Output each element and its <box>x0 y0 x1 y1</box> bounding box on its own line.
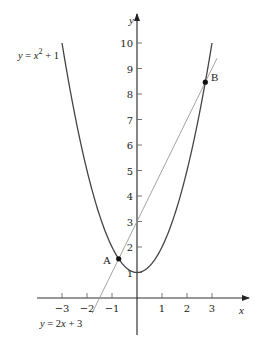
y-tick-label: 4 <box>127 191 133 202</box>
y-tick-label: 7 <box>127 115 133 126</box>
x-tick-label: −3 <box>55 303 70 314</box>
y-tick-label: 9 <box>127 64 133 75</box>
x-ticks: −3−2−1123 <box>55 293 216 314</box>
point-a-marker <box>116 256 121 261</box>
parabola-equation-label: y = x2 + 1 <box>17 47 59 61</box>
line-equation-label: y = 2x + 3 <box>39 318 82 329</box>
y-tick-label: 5 <box>127 166 133 177</box>
y-axis-label: y <box>128 14 134 26</box>
graph-canvas: −3−2−1123 12345678910 A B y x y = x2 + 1… <box>0 0 257 352</box>
x-tick-label: −1 <box>105 303 120 314</box>
x-tick-label: 3 <box>209 303 215 314</box>
y-tick-label: 10 <box>120 38 133 49</box>
point-b-marker <box>203 80 208 85</box>
y-tick-label: 6 <box>127 140 133 151</box>
x-tick-label: 1 <box>159 303 165 314</box>
y-tick-label: 2 <box>127 242 133 253</box>
y-tick-label: 8 <box>127 89 133 100</box>
point-b-label: B <box>211 71 218 83</box>
y-ticks: 12345678910 <box>120 38 142 279</box>
x-axis-label: x <box>238 304 244 316</box>
x-tick-label: 2 <box>184 303 190 314</box>
y-tick-label: 3 <box>127 217 133 228</box>
tangent-line <box>92 58 217 313</box>
point-a-label: A <box>103 254 111 266</box>
